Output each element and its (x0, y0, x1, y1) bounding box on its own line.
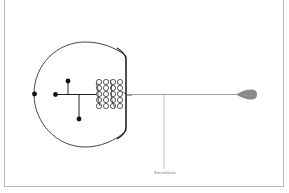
terminal-dot-bottom (77, 117, 82, 122)
terminal-dot-left-edge (32, 92, 37, 97)
axon-terminal (236, 90, 257, 100)
neuron-diagram (0, 0, 289, 193)
terminal-dot-inner (53, 92, 58, 97)
terminal-dot-top (66, 79, 71, 84)
excitation-label: Excitation (150, 170, 180, 175)
coiled-structure (96, 79, 123, 108)
